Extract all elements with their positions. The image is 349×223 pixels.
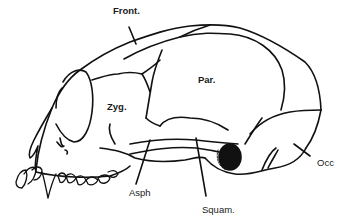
squamosal-suture [160,117,228,130]
label-occipital: Occ [317,158,334,168]
orbit [56,70,93,142]
label-frontal: Front. [113,6,140,16]
zygomatic-suture [92,73,150,93]
zygomatic-arch-upper [130,139,238,144]
alisphenoid-pointer [136,140,150,184]
squamosal-pointer [196,138,206,196]
label-parietal: Par. [198,75,215,85]
label-alisphenoid: Asph [129,188,151,198]
skull-diagram: Front. Par. Zyg. Asph Squam. Occ [0,0,349,223]
teeth [16,167,118,198]
auditory-bulla [219,144,241,170]
label-zygomatic: Zyg. [107,102,127,112]
skull-drawing [0,0,349,223]
occipital-outline [306,110,321,148]
label-squamosal: Squam. [202,205,235,215]
zygomatic-arch-lower [130,147,228,154]
frontal-inner-line [124,33,285,110]
